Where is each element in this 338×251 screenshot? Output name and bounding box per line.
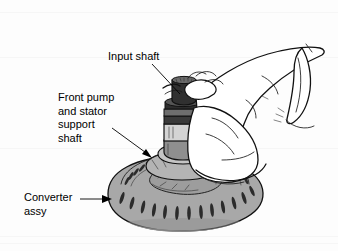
callout-converter-line2: assy bbox=[24, 205, 47, 217]
callout-front-pump-line3: support bbox=[58, 118, 95, 130]
technical-illustration: Input shaft Front pump and stator suppor… bbox=[0, 0, 338, 251]
thumb bbox=[185, 80, 216, 99]
figure-container: Input shaft Front pump and stator suppor… bbox=[0, 0, 338, 251]
callout-front-pump-line1: Front pump bbox=[58, 91, 114, 103]
callout-converter-line1: Converter bbox=[24, 191, 73, 203]
callout-front-pump-line2: and stator bbox=[58, 105, 107, 117]
callout-front-pump-line4: shaft bbox=[58, 132, 82, 144]
callout-input-shaft: Input shaft bbox=[108, 50, 159, 62]
callout-input-shaft-line1: Input shaft bbox=[108, 50, 159, 62]
